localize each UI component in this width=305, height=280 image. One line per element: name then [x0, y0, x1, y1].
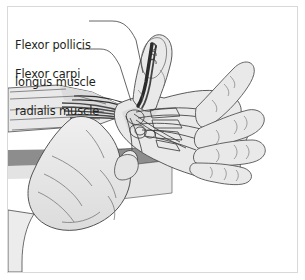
label-flexor-carpi-radialis: Flexor carpi radialis muscle [15, 43, 99, 142]
label-fcr-line2: radialis muscle [15, 105, 99, 117]
label-fcr-line1: Flexor carpi [15, 68, 99, 80]
figure-container: Flexor pollicis longus muscle Flexor car… [0, 0, 305, 280]
finger-little [190, 163, 252, 185]
fingers [190, 62, 265, 185]
little-finger-outline [190, 163, 252, 185]
examiner-forearm [8, 210, 34, 272]
